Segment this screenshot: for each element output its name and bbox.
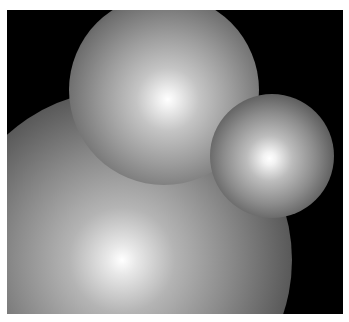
sphere-right <box>210 94 334 218</box>
image-panel <box>7 10 343 314</box>
